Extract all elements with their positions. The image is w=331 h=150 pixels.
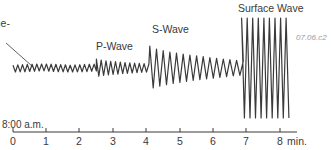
p-wave-label: P-Wave (96, 41, 133, 52)
axis-tick-label: 6 (210, 136, 216, 147)
s-wave-label: S-Wave (152, 24, 189, 35)
seismic-trace (13, 18, 289, 118)
axis-tick-label: 8 (277, 136, 283, 147)
axis-tick-label: 5 (177, 136, 183, 147)
axis-tick-label: 2 (76, 136, 82, 147)
axis-tick-label: 4 (143, 136, 149, 147)
axis-tick-label: 0 (10, 136, 16, 147)
surface-wave-label: Surface Wave (238, 3, 304, 14)
axis-tick-label: 1 (43, 136, 49, 147)
axis-tick-label: 3 (110, 136, 116, 147)
figure-id-label: 07.06.c2 (296, 33, 327, 42)
callout-pointer-line (6, 43, 32, 66)
time-unit-label: min. (287, 136, 307, 147)
seismogram-figure: he ome- s. P-Wave S-Wave Surface Wave 07… (0, 0, 331, 150)
start-time-label: 8:00 a.m. (2, 119, 44, 130)
axis-tick-label: 7 (243, 136, 249, 147)
